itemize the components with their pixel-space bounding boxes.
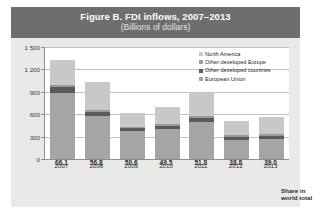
y-axis-tick-label: 300 [0, 134, 40, 141]
y-axis-tick-label: 1 200 [0, 66, 40, 73]
legend-swatch-icon [199, 60, 203, 64]
share-value: 56.8 [79, 159, 114, 166]
bar-segment [85, 82, 110, 110]
stacked-bar [189, 93, 214, 159]
bar-segment [120, 131, 145, 159]
legend-swatch-icon [199, 77, 203, 81]
share-label-line-2: world total [281, 194, 312, 201]
share-in-world-total-label: Share in world total [281, 187, 325, 202]
legend-item-other-developed-europe: Other developed Europe [199, 58, 271, 66]
share-value: 66.1 [44, 159, 79, 166]
legend-label: Other developed countries [205, 66, 271, 74]
bar-column [115, 47, 150, 159]
bar-segment [155, 107, 180, 124]
y-axis-tick-label: 1 500 [0, 44, 40, 51]
bar-segment [259, 139, 284, 159]
stacked-bar [85, 82, 110, 159]
share-in-world-total-row: 66.156.850.649.551.838.839.0 [44, 159, 288, 166]
share-value: 51.8 [183, 159, 218, 166]
bar-segment [50, 93, 75, 159]
figure-panel: Figure B. FDI inflows, 2007–2013 (Billio… [11, 7, 300, 207]
bar-segment [189, 93, 214, 115]
share-value: 38.8 [218, 159, 253, 166]
y-axis-tick-label: 900 [0, 89, 40, 96]
share-value: 39.0 [253, 159, 288, 166]
stacked-bar [224, 121, 249, 159]
figure-title: Figure B. FDI inflows, 2007–2013 [11, 7, 300, 22]
stacked-bar [259, 117, 284, 159]
figure-title-banner: Figure B. FDI inflows, 2007–2013 (Billio… [11, 7, 300, 38]
bar-segment [155, 129, 180, 159]
bar-segment [224, 140, 249, 159]
y-axis-tick-label: 0 [0, 156, 40, 163]
bar-segment [120, 113, 145, 126]
bar-segment [189, 122, 214, 159]
legend-item-european-union: European Union [199, 75, 271, 83]
bar-column [80, 47, 115, 159]
bar-segment [259, 117, 284, 135]
legend-swatch-icon [199, 52, 203, 56]
legend-swatch-icon [199, 69, 203, 73]
legend-label: North America [205, 50, 240, 58]
share-value: 49.5 [149, 159, 184, 166]
legend-item-north-america: North America [199, 50, 271, 58]
y-axis-tick-label: 600 [0, 111, 40, 118]
bar-segment [224, 121, 249, 136]
bar-column [45, 47, 80, 159]
legend-item-other-developed-countries: Other developed countries [199, 66, 271, 74]
figure-subtitle: (Billions of dollars) [11, 22, 300, 33]
legend-label: European Union [205, 75, 245, 83]
stacked-bar [50, 60, 75, 159]
stacked-bar [155, 107, 180, 159]
chart-legend: North America Other developed Europe Oth… [199, 50, 271, 83]
bar-segment [85, 116, 110, 159]
bar-segment [50, 60, 75, 85]
stacked-bar [120, 113, 145, 159]
bar-column [150, 47, 185, 159]
share-value: 50.6 [114, 159, 149, 166]
share-label-line-1: Share in [281, 187, 305, 194]
legend-label: Other developed Europe [205, 58, 266, 66]
